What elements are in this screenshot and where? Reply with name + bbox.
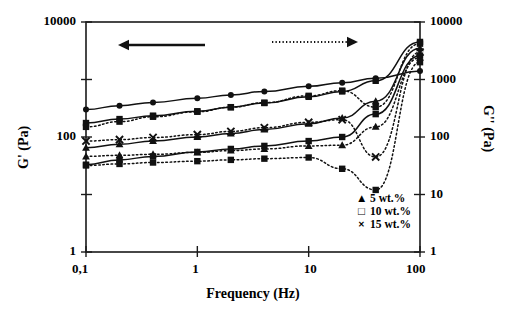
legend-item-10wt: □ 10 wt.% [356, 205, 430, 218]
series-2 [83, 40, 423, 130]
data-point-filled-circle [228, 92, 234, 98]
data-point-filled-square [194, 158, 200, 164]
data-point-filled-square [339, 166, 345, 172]
legend-label-10wt: 10 wt.% [370, 205, 411, 218]
legend-label-5wt: 5 wt.% [370, 192, 405, 205]
left-arrow-head [118, 40, 129, 50]
data-point-filled-circle [83, 107, 89, 113]
series-1 [83, 39, 423, 126]
y-left-tick-100: 100 [0, 128, 76, 144]
data-point-filled-circle [150, 99, 156, 105]
data-point-filled-square [305, 154, 311, 160]
y-right-axis-title: G'' (Pa) [480, 105, 496, 152]
y-left-tick-10000: 10000 [0, 13, 76, 29]
y-left-tick-1: 1 [0, 243, 76, 259]
data-point-filled-square [194, 109, 200, 115]
data-point-filled-square [339, 87, 345, 93]
cross-icon: ✕ [356, 218, 367, 231]
data-point-filled-circle [117, 103, 123, 109]
chart-legend: ▲ 5 wt.% □ 10 wt.% ✕ 15 wt.% [356, 192, 430, 231]
data-point-filled-square [372, 104, 378, 110]
right-arrow-head [347, 37, 358, 47]
data-point-filled-square [372, 78, 378, 84]
data-point-filled-square [228, 157, 234, 163]
series-line-5 [86, 56, 420, 165]
data-point-filled-square [261, 99, 267, 105]
data-point-filled-square [83, 124, 89, 130]
data-point-filled-square [150, 114, 156, 120]
y-right-tick-10: 10 [430, 186, 443, 202]
filled-triangle-icon: ▲ [356, 192, 367, 205]
x-tick-100: 100 [0, 261, 515, 277]
series-line-3 [86, 48, 420, 148]
y-left-axis-title: G' (Pa) [16, 126, 32, 169]
data-point-filled-circle [306, 83, 312, 89]
data-point-filled-square [116, 161, 122, 167]
series-5 [83, 52, 423, 167]
data-point-filled-square [417, 59, 423, 65]
chart-figure: { "chart_data": { "type": "line", "title… [0, 0, 515, 321]
data-point-filled-triangle [82, 152, 90, 159]
legend-item-15wt: ✕ 15 wt.% [356, 218, 430, 231]
data-point-filled-square [228, 104, 234, 110]
y-right-tick-100: 100 [430, 128, 450, 144]
series-line-2 [86, 44, 420, 127]
data-point-filled-circle [194, 95, 200, 101]
data-point-filled-circle [417, 68, 423, 74]
series-line-1 [86, 42, 420, 123]
y-right-tick-1000: 1000 [430, 71, 456, 87]
data-point-filled-square [150, 159, 156, 165]
y-right-tick-1: 1 [430, 243, 437, 259]
series-line-6 [86, 58, 420, 157]
series-0 [83, 68, 423, 112]
data-point-filled-square [305, 93, 311, 99]
legend-label-15wt: 15 wt.% [370, 218, 430, 231]
legend-item-5wt: ▲ 5 wt.% [356, 192, 430, 205]
open-square-icon: □ [356, 205, 367, 218]
data-point-filled-circle [261, 88, 267, 94]
x-axis-title: Frequency (Hz) [0, 286, 511, 302]
series-3 [82, 44, 424, 151]
data-point-filled-circle [339, 80, 345, 86]
data-point-filled-square [372, 111, 378, 117]
data-point-filled-square [261, 155, 267, 161]
y-right-tick-10000: 10000 [430, 13, 463, 29]
data-point-filled-square [339, 134, 345, 140]
data-point-filled-square [83, 162, 89, 168]
data-point-filled-square [116, 118, 122, 124]
